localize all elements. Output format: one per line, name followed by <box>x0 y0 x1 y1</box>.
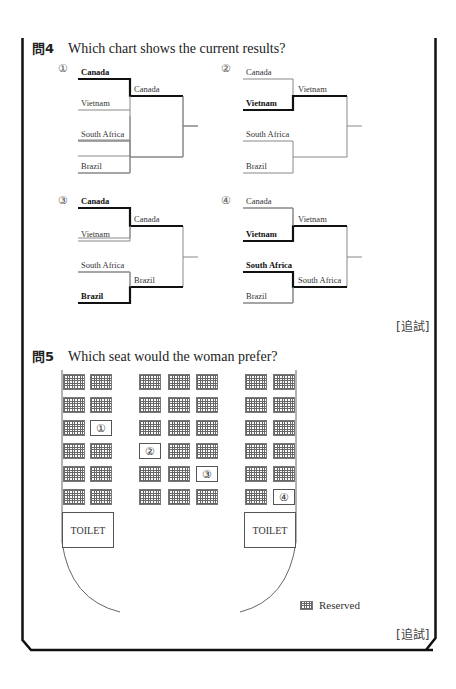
reserved-seat <box>245 397 267 413</box>
reserved-seat <box>168 374 190 390</box>
reserved-seat <box>90 397 112 413</box>
reserved-seat <box>273 443 295 459</box>
reserved-seat <box>245 443 267 459</box>
reserved-seat <box>196 374 218 390</box>
source-tag-q4: [追試] <box>396 317 429 334</box>
team-label: Brazil <box>246 161 267 171</box>
option-3-number[interactable]: ③ <box>58 194 68 207</box>
reserved-seat <box>139 489 161 505</box>
team-label: Vietnam <box>81 229 110 239</box>
round1-winner-label: Vietnam <box>298 214 327 224</box>
team-label: Brazil <box>81 291 103 301</box>
option-1-number[interactable]: ① <box>58 62 68 75</box>
round1-winner-label: Brazil <box>134 275 155 285</box>
reserved-seat <box>273 466 295 482</box>
team-label: Brazil <box>81 161 102 171</box>
reserved-seat <box>63 466 85 482</box>
reserved-seat <box>245 489 267 505</box>
bracket-charts <box>0 0 456 340</box>
reserved-seat <box>168 489 190 505</box>
toilet-left: TOILET <box>62 512 114 548</box>
legend: Reserved <box>300 599 360 611</box>
team-label: Vietnam <box>246 98 277 108</box>
reserved-seat <box>196 443 218 459</box>
option-4-number[interactable]: ④ <box>221 194 231 207</box>
seat-option-4[interactable]: ④ <box>273 489 295 505</box>
reserved-seat <box>139 466 161 482</box>
reserved-seat <box>196 397 218 413</box>
round1-winner-label: South Africa <box>298 275 341 285</box>
reserved-seat <box>245 420 267 436</box>
reserved-seat <box>273 374 295 390</box>
reserved-seat <box>273 397 295 413</box>
team-label: Vietnam <box>81 98 110 108</box>
reserved-seat <box>139 397 161 413</box>
reserved-seat <box>90 374 112 390</box>
reserved-seat <box>90 489 112 505</box>
team-label: Canada <box>81 196 109 206</box>
round1-winner-label: Canada <box>134 84 160 94</box>
reserved-seat <box>90 466 112 482</box>
round1-winner-label: Vietnam <box>298 84 327 94</box>
reserved-seat <box>196 489 218 505</box>
reserved-seat <box>168 420 190 436</box>
team-label: Canada <box>81 67 109 77</box>
team-label: South Africa <box>81 260 124 270</box>
seat-option-1[interactable]: ① <box>90 420 112 436</box>
reserved-seat <box>63 443 85 459</box>
reserved-seat <box>139 420 161 436</box>
option-2-number[interactable]: ② <box>221 62 231 75</box>
reserved-seat <box>245 466 267 482</box>
team-label: South Africa <box>81 129 124 139</box>
reserved-swatch-icon <box>300 601 313 610</box>
reserved-seat <box>63 374 85 390</box>
reserved-seat <box>168 466 190 482</box>
reserved-seat <box>168 443 190 459</box>
team-label: Canada <box>246 67 272 77</box>
team-label: Vietnam <box>246 229 277 239</box>
reserved-seat <box>168 397 190 413</box>
reserved-seat <box>139 374 161 390</box>
legend-label: Reserved <box>319 599 360 611</box>
seat-option-3[interactable]: ③ <box>196 466 218 482</box>
team-label: Brazil <box>246 291 267 301</box>
reserved-seat <box>63 397 85 413</box>
reserved-seat <box>63 420 85 436</box>
team-label: South Africa <box>246 129 289 139</box>
reserved-seat <box>273 420 295 436</box>
seat-option-2[interactable]: ② <box>139 443 161 459</box>
reserved-seat <box>63 489 85 505</box>
reserved-seat <box>90 443 112 459</box>
toilet-right: TOILET <box>244 512 296 548</box>
reserved-seat <box>245 374 267 390</box>
team-label: Canada <box>246 196 272 206</box>
source-tag-q5: [追試] <box>396 625 429 642</box>
round1-winner-label: Canada <box>134 214 160 224</box>
team-label: South Africa <box>246 260 292 270</box>
reserved-seat <box>196 420 218 436</box>
